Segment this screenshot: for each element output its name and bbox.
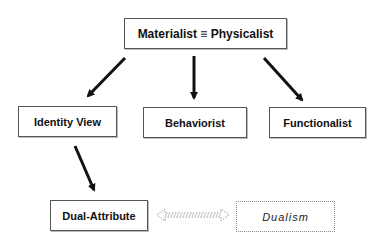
arrow-materialist-to-functionalist — [264, 58, 302, 100]
node-identity-view: Identity View — [18, 106, 117, 137]
node-materialist-physicalist: Materialist ≡ Physicalist — [124, 18, 287, 49]
node-dualism: Dualism — [236, 201, 335, 232]
node-functionalist: Functionalist — [269, 107, 366, 138]
double-arrow-dual-attribute-dualism — [157, 209, 229, 221]
node-label: Behaviorist — [165, 117, 225, 129]
arrow-identity-to-dual-attribute — [75, 146, 94, 190]
node-dual-attribute: Dual-Attribute — [50, 200, 148, 231]
node-label: Functionalist — [283, 117, 351, 129]
node-behaviorist: Behaviorist — [143, 107, 247, 138]
node-label: Dualism — [262, 211, 309, 223]
node-label: Dual-Attribute — [62, 210, 135, 222]
node-label: Identity View — [34, 116, 101, 128]
node-label: Materialist ≡ Physicalist — [138, 27, 274, 41]
arrow-materialist-to-identity — [88, 58, 125, 96]
